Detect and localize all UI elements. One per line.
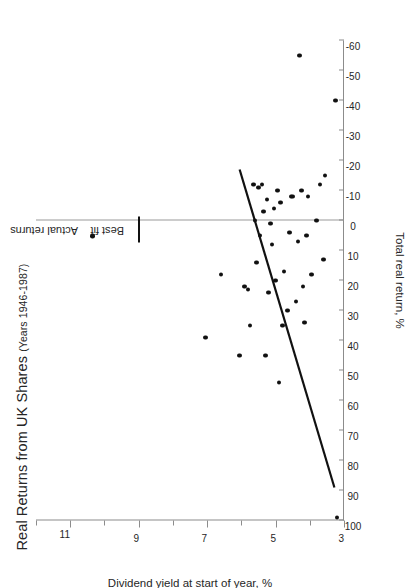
yield-tick — [138, 520, 139, 527]
return-tick — [339, 249, 344, 250]
data-point — [251, 182, 256, 187]
yield-tick-label: 9 — [133, 533, 139, 544]
return-tick — [339, 129, 344, 130]
data-point — [257, 233, 262, 238]
return-tick-label: 80 — [347, 460, 358, 471]
data-point — [256, 185, 261, 190]
best-fit-line — [36, 40, 344, 520]
chart-title-subtitle: (Years 1946-1987) — [17, 263, 29, 351]
yield-tick — [104, 520, 105, 525]
yield-tick-label: 3 — [338, 533, 344, 544]
data-point — [302, 320, 307, 325]
data-point — [278, 200, 283, 205]
yield-tick-label: 11 — [59, 528, 69, 539]
return-tick-label: -50 — [345, 70, 359, 81]
data-point — [276, 380, 281, 385]
data-point — [247, 323, 252, 328]
data-point — [300, 284, 305, 289]
return-tick-label: 100 — [344, 520, 361, 531]
return-tick-label: 70 — [347, 430, 358, 441]
data-point — [288, 194, 293, 199]
plot-area: 1009080706050403020100-10-20-30-40-50-60… — [36, 40, 344, 520]
yield-tick — [344, 520, 345, 527]
return-tick — [339, 159, 344, 160]
return-tick-label: 60 — [347, 400, 358, 411]
data-point — [293, 299, 298, 304]
line-marker-icon — [138, 216, 140, 242]
return-tick-label: -40 — [345, 100, 359, 111]
data-point — [298, 188, 303, 193]
data-point — [317, 182, 322, 187]
yield-tick — [275, 520, 276, 527]
return-tick-label: 10 — [347, 250, 358, 261]
data-point — [280, 323, 285, 328]
return-axis-title: Total real return, % — [394, 232, 406, 329]
data-point — [305, 194, 310, 199]
data-point — [218, 272, 223, 277]
return-tick-label: -20 — [345, 160, 359, 171]
data-point — [314, 218, 319, 223]
return-tick — [339, 489, 344, 490]
return-tick — [339, 309, 344, 310]
yield-tick — [172, 520, 173, 525]
legend: Actual returns Best fit — [52, 118, 144, 238]
return-tick-label: 90 — [347, 490, 358, 501]
data-point — [309, 272, 314, 277]
legend-label-actual-returns: Actual returns — [10, 224, 78, 236]
data-point — [304, 233, 309, 238]
data-point — [295, 239, 300, 244]
chart-title-main: Real Returns from UK Shares — [14, 356, 30, 551]
legend-item-best-fit: Best fit — [98, 118, 144, 238]
return-tick — [339, 219, 344, 220]
return-tick — [339, 429, 344, 430]
return-tick-label: -10 — [345, 190, 359, 201]
return-tick — [339, 39, 344, 40]
yield-tick — [241, 520, 242, 525]
yield-tick-label: 5 — [269, 533, 275, 544]
data-point — [264, 197, 269, 202]
return-tick — [339, 519, 344, 520]
data-point — [237, 353, 242, 358]
return-tick — [339, 69, 344, 70]
data-point — [262, 353, 267, 358]
legend-item-actual-returns: Actual returns — [52, 118, 98, 238]
yield-tick — [70, 520, 71, 527]
return-tick — [339, 189, 344, 190]
return-tick — [339, 339, 344, 340]
yield-tick-label: 7 — [201, 533, 207, 544]
return-tick-label: 20 — [347, 280, 358, 291]
return-tick-label: 30 — [347, 310, 358, 321]
data-point — [273, 278, 278, 283]
return-tick — [339, 369, 344, 370]
yield-tick — [207, 520, 208, 527]
yield-tick — [309, 520, 310, 525]
chart-title: Real Returns from UK Shares (Years 1946-… — [14, 263, 30, 550]
data-point — [334, 515, 339, 520]
data-point — [322, 173, 327, 178]
data-point — [242, 284, 247, 289]
return-tick-label: 0 — [350, 220, 356, 231]
return-tick-label: -30 — [345, 130, 359, 141]
return-tick — [339, 279, 344, 280]
data-point — [203, 335, 208, 340]
data-point — [268, 221, 273, 226]
data-point — [254, 260, 259, 265]
data-point — [297, 53, 302, 58]
return-tick-label: 50 — [347, 370, 358, 381]
return-tick-label: -60 — [345, 40, 359, 51]
yield-tick — [36, 520, 37, 525]
data-point — [274, 188, 279, 193]
yield-axis-title: Dividend yield at start of year, % — [107, 576, 271, 588]
data-point — [252, 218, 257, 223]
data-point — [269, 242, 274, 247]
return-tick-label: 40 — [347, 340, 358, 351]
data-point — [271, 206, 276, 211]
data-point — [321, 257, 326, 262]
data-point — [286, 230, 291, 235]
legend-label-best-fit: Best fit — [90, 224, 124, 236]
data-point — [333, 98, 338, 103]
data-point — [281, 269, 286, 274]
data-point — [266, 290, 271, 295]
